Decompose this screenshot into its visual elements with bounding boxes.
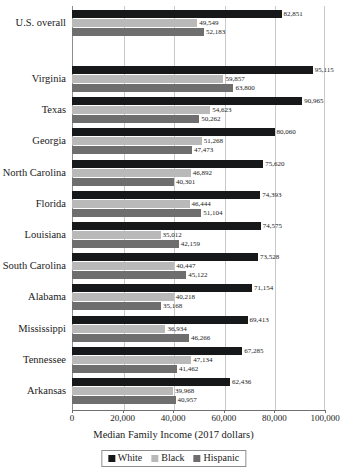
x-axis-tick-label: 100,000 <box>310 414 339 423</box>
bar-value-label: 36,934 <box>165 325 186 332</box>
bar-row: 45,122 <box>72 271 325 279</box>
bar-value-label: 40,218 <box>174 294 195 301</box>
bar-row: 36,934 <box>72 325 325 333</box>
bar-row: 46,892 <box>72 169 325 177</box>
bar <box>72 347 242 355</box>
x-axis-tick <box>72 410 73 413</box>
bar-value-label: 40,447 <box>174 263 195 270</box>
legend-label: White <box>118 453 142 463</box>
bar <box>72 128 275 136</box>
category-label: Arkansas <box>0 386 66 397</box>
x-axis-tick <box>173 410 174 413</box>
x-axis-tick <box>274 410 275 413</box>
bar-row: 69,413 <box>72 316 325 324</box>
bar <box>72 316 248 324</box>
bar-value-label: 82,851 <box>282 11 303 18</box>
bar <box>72 19 197 27</box>
bar-row: 51,268 <box>72 137 325 145</box>
bar-group: Arkansas62,43639,96840,957 <box>0 378 347 404</box>
bar-group: Georgia80,06051,26847,473 <box>0 128 347 154</box>
bar-row: 63,800 <box>72 84 325 92</box>
bar <box>72 325 165 333</box>
bar-row: 41,462 <box>72 365 325 373</box>
bar-row: 40,447 <box>72 262 325 270</box>
category-label: Alabama <box>0 292 66 303</box>
bar-row: 71,154 <box>72 284 325 292</box>
bar <box>72 302 161 310</box>
chart-legend: WhiteBlackHispanic <box>101 450 246 467</box>
bar <box>72 240 179 248</box>
bar-value-label: 63,800 <box>233 85 254 92</box>
bar <box>72 191 260 199</box>
category-label: Florida <box>0 199 66 210</box>
bar-value-label: 62,436 <box>230 379 251 386</box>
category-label: Tennessee <box>0 355 66 366</box>
bar <box>72 28 204 36</box>
bar <box>72 334 189 342</box>
bar <box>72 222 261 230</box>
bar-value-label: 41,462 <box>177 365 198 372</box>
bar <box>72 356 191 364</box>
bar <box>72 209 201 217</box>
bar-row: 73,528 <box>72 253 325 261</box>
bar-row: 80,060 <box>72 128 325 136</box>
bar-row: 52,183 <box>72 28 325 36</box>
x-axis-tick-label: 20,000 <box>110 414 135 423</box>
bar-row: 74,393 <box>72 191 325 199</box>
bar <box>72 84 233 92</box>
bar-value-label: 42,159 <box>179 241 200 248</box>
bar-row: 42,159 <box>72 240 325 248</box>
legend-label: Black <box>161 453 184 463</box>
bar-value-label: 46,892 <box>191 169 212 176</box>
legend-label: Hispanic <box>204 453 240 463</box>
bar-group: South Carolina73,52840,44745,122 <box>0 253 347 279</box>
bar-row: 49,549 <box>72 19 325 27</box>
bar <box>72 178 174 186</box>
bar-row: 40,957 <box>72 396 325 404</box>
bar-group: Mississippi69,41336,93446,266 <box>0 316 347 342</box>
bar-value-label: 51,268 <box>202 138 223 145</box>
bar-row: 47,134 <box>72 356 325 364</box>
bar-row: 54,623 <box>72 106 325 114</box>
bar <box>72 293 174 301</box>
x-axis-title: Median Family Income (2017 dollars) <box>0 430 347 441</box>
bar-value-label: 90,965 <box>302 98 323 105</box>
bar <box>72 365 177 373</box>
x-axis-line <box>72 410 325 411</box>
category-label: Georgia <box>0 136 66 147</box>
bar-row: 39,968 <box>72 387 325 395</box>
bar <box>72 75 223 83</box>
bar-row: 67,285 <box>72 347 325 355</box>
bar-group: Virginia95,11559,85763,800 <box>0 66 347 92</box>
legend-swatch-icon <box>194 455 201 462</box>
bar-row: 59,857 <box>72 75 325 83</box>
bar <box>72 160 263 168</box>
x-axis-tick-label: 60,000 <box>211 414 236 423</box>
bar <box>72 97 302 105</box>
bar <box>72 137 202 145</box>
bar <box>72 284 252 292</box>
bar-value-label: 40,301 <box>174 178 195 185</box>
legend-swatch-icon <box>108 455 115 462</box>
bar <box>72 146 192 154</box>
bar-group: Alabama71,15440,21835,168 <box>0 284 347 310</box>
bar-value-label: 50,262 <box>199 116 220 123</box>
bar-row: 35,012 <box>72 231 325 239</box>
bar-row: 62,436 <box>72 378 325 386</box>
category-label: Mississippi <box>0 324 66 335</box>
x-axis-tick-label: 40,000 <box>161 414 186 423</box>
bar-value-label: 47,473 <box>192 147 213 154</box>
bar <box>72 169 191 177</box>
bar-value-label: 51,104 <box>201 209 222 216</box>
x-axis-tick <box>224 410 225 413</box>
bar-row: 50,262 <box>72 115 325 123</box>
bar-row: 75,620 <box>72 160 325 168</box>
bar-group: Texas90,96554,62350,262 <box>0 97 347 123</box>
bar-value-label: 54,623 <box>210 107 231 114</box>
bar-row: 90,965 <box>72 97 325 105</box>
legend-entry: Hispanic <box>194 453 240 463</box>
bar-group: Louisiana74,57535,01242,159 <box>0 222 347 248</box>
category-label: South Carolina <box>0 261 66 272</box>
bar-value-label: 75,620 <box>263 160 284 167</box>
bar-row: 74,575 <box>72 222 325 230</box>
